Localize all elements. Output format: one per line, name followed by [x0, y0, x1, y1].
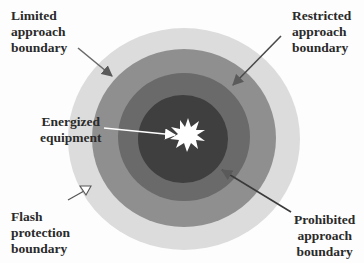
boundary-diagram: Limited approach boundary Restricted app… [0, 0, 364, 263]
limited-approach-label: Limited approach boundary [11, 8, 67, 56]
restricted-approach-label: Restricted approach boundary [292, 8, 351, 56]
energized-equipment-label: Energized equipment [40, 114, 102, 146]
prohibited-approach-label: Prohibited approach boundary [294, 212, 355, 260]
flash-protection-label: Flash protection boundary [11, 209, 70, 257]
